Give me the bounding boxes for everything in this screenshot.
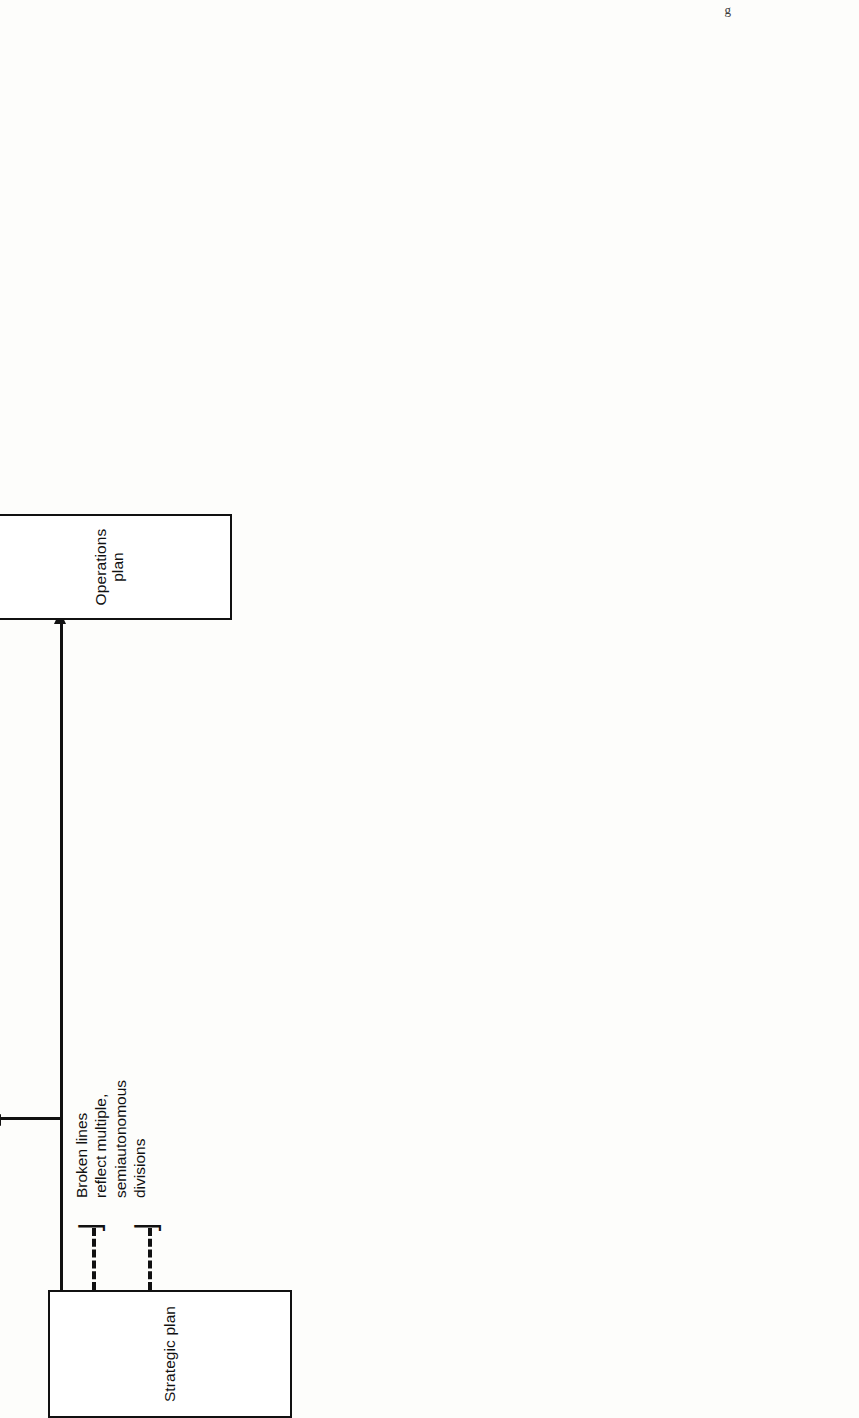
box-strategic-plan-label: Strategic plan [161,1303,178,1405]
box-strategic-plan[interactable]: Strategic plan [48,1290,292,1418]
legend-bracket-1: ⌋ [76,1222,106,1234]
spine-strategic-main [60,620,63,1292]
arrow-strategic-to-corporate [0,1114,1,1126]
box-operations-plan-label: Operations plan [92,516,127,618]
legend-dash-line-1 [92,1228,96,1290]
legend-dash-line-2 [148,1228,152,1290]
box-operations-plan[interactable]: Operations plan [0,514,232,620]
connector-strategic-to-corporate [0,1117,60,1120]
legend-caption: Broken lines reflect multiple, semiauton… [72,1008,150,1198]
legend-bracket-2: ⌋ [132,1222,162,1234]
